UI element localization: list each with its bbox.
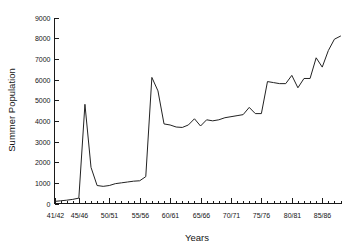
x-axis-title: Years (185, 232, 209, 243)
x-tick-label: 65/66 (193, 212, 211, 219)
y-tick-label: 2000 (35, 159, 51, 166)
y-tick-label: 5000 (35, 97, 51, 104)
x-tick-label: 50/51 (101, 212, 119, 219)
y-tick-label: 7000 (35, 56, 51, 63)
x-axis: 41/4245/4650/5155/5660/6165/6670/7175/76… (47, 198, 342, 219)
x-tick-label: 41/42 (47, 212, 65, 219)
x-tick-label: 70/71 (223, 212, 241, 219)
y-axis-title: Summer Population (6, 68, 17, 151)
y-tick-label: 0 (47, 201, 51, 208)
x-tick-label-group: 41/4245/4650/5155/5660/6165/6670/7175/76… (47, 212, 332, 219)
x-tick-label: 60/61 (162, 212, 180, 219)
x-tick-label: 85/86 (314, 212, 332, 219)
x-tick-label: 45/46 (71, 212, 89, 219)
x-tick-label: 75/76 (253, 212, 271, 219)
y-tick-group (55, 19, 59, 205)
y-tick-label-group: 0100020003000400050006000700080009000 (35, 15, 51, 208)
y-tick-label: 1000 (35, 180, 51, 187)
x-tick-label: 80/81 (284, 212, 302, 219)
chart-figure: 0100020003000400050006000700080009000 41… (0, 0, 355, 251)
y-tick-label: 8000 (35, 35, 51, 42)
y-axis: 0100020003000400050006000700080009000 (35, 15, 59, 208)
y-tick-label: 9000 (35, 15, 51, 22)
summer-population-line (55, 36, 341, 201)
population-line-chart: 0100020003000400050006000700080009000 41… (0, 0, 355, 251)
y-tick-label: 6000 (35, 77, 51, 84)
y-tick-label: 3000 (35, 139, 51, 146)
y-tick-label: 4000 (35, 118, 51, 125)
x-tick-label: 55/56 (132, 212, 150, 219)
